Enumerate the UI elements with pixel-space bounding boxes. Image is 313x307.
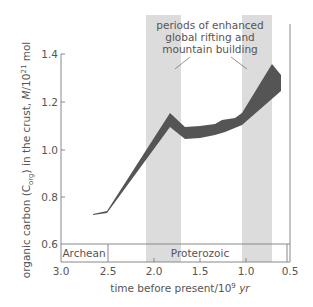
y-tick-1.0: 1.0 xyxy=(41,144,58,156)
eon-label-proterozoic: Proterozoic xyxy=(171,247,230,259)
x-tick-2.5: 2.5 xyxy=(100,265,117,277)
x-tick-2.0: 2.0 xyxy=(146,265,163,277)
x-axis-label: time before present/109 yr xyxy=(110,282,250,294)
y-axis-label: organic carbon (Corg) in the crust, M/10… xyxy=(20,42,35,279)
x-tick-0.5: 0.5 xyxy=(282,265,299,277)
y-tick-1.4: 1.4 xyxy=(41,48,58,60)
annotation-line-3: mountain building xyxy=(162,43,257,55)
annotation-line-2: global rifting and xyxy=(165,31,255,43)
eon-label-archean: Archean xyxy=(62,247,105,259)
x-tick-1.0: 1.0 xyxy=(238,265,255,277)
x-tick-3.0: 3.0 xyxy=(53,265,70,277)
x-tick-1.5: 1.5 xyxy=(192,265,209,277)
chart-svg: periods of enhanced global rifting and m… xyxy=(0,0,313,307)
annotation: periods of enhanced global rifting and m… xyxy=(156,19,263,55)
y-ticks xyxy=(61,54,65,197)
annotation-line-1: periods of enhanced xyxy=(156,19,263,31)
y-tick-0.8: 0.8 xyxy=(41,191,58,203)
x-tick-labels: 3.0 2.5 2.0 1.5 1.0 0.5 xyxy=(53,265,299,277)
chart-figure: periods of enhanced global rifting and m… xyxy=(0,0,313,307)
y-tick-1.2: 1.2 xyxy=(41,96,58,108)
y-tick-0.6: 0.6 xyxy=(41,238,58,250)
y-tick-labels: 1.4 1.2 1.0 0.8 0.6 xyxy=(41,48,58,250)
